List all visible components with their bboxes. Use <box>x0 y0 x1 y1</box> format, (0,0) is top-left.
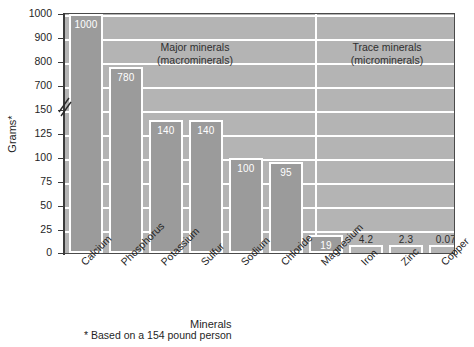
y-tick-label: 700 <box>8 80 52 91</box>
y-tick-mark <box>58 38 63 39</box>
y-tick-label: 0 <box>8 247 52 258</box>
gridline <box>65 15 454 17</box>
bar: 780 <box>109 67 143 253</box>
y-tick-label: 800 <box>8 56 52 67</box>
y-tick-label: 25 <box>8 224 52 235</box>
axis-break-icon <box>57 96 73 118</box>
plot-area: 100078014014010095194.22.30.070.02 Major… <box>64 13 455 254</box>
bar-value-label: 2.3 <box>391 234 421 245</box>
mineral-content-bar-chart: 100078014014010095194.22.30.070.02 Major… <box>0 0 474 347</box>
section-title-trace-line2: (microminerals) <box>320 54 454 67</box>
y-tick-mark <box>58 253 63 254</box>
bar-value-label: 140 <box>191 125 221 136</box>
y-tick-mark <box>58 86 63 87</box>
bar-value-label: 0.07 <box>431 234 455 245</box>
y-tick-label: 75 <box>8 176 52 187</box>
y-axis-label: Grams* <box>6 99 18 169</box>
y-tick-mark <box>58 206 63 207</box>
bar-value-label: 140 <box>151 125 181 136</box>
y-tick-label: 50 <box>8 200 52 211</box>
section-title-major: Major minerals (macrominerals) <box>95 41 295 67</box>
y-tick-label: 900 <box>8 32 52 43</box>
section-title-trace: Trace minerals (microminerals) <box>320 41 454 67</box>
y-tick-mark <box>58 230 63 231</box>
y-tick-mark <box>58 182 63 183</box>
section-title-trace-line1: Trace minerals <box>320 41 454 54</box>
footnote: * Based on a 154 pound person <box>84 329 232 341</box>
section-title-major-line1: Major minerals <box>95 41 295 54</box>
y-tick-label: 1000 <box>8 8 52 19</box>
bar-value-label: 95 <box>271 167 301 178</box>
y-tick-mark <box>58 62 63 63</box>
bar-value-label: 1000 <box>71 19 101 30</box>
y-tick-mark <box>58 14 63 15</box>
bar-value-label: 780 <box>111 72 141 83</box>
section-divider <box>315 14 317 253</box>
section-title-major-line2: (macrominerals) <box>95 54 295 67</box>
y-tick-mark <box>58 134 63 135</box>
y-axis-line <box>63 13 65 255</box>
bar-value-label: 100 <box>231 163 261 174</box>
y-tick-mark <box>58 158 63 159</box>
